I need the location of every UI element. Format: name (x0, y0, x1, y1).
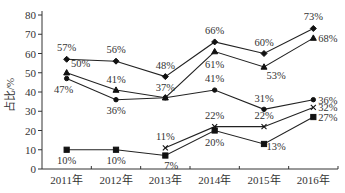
x-tick-label: 2015年 (248, 173, 281, 186)
x-tick-label: 2013年 (149, 173, 182, 186)
series-1-point (113, 58, 119, 64)
series-1-data-label: 66% (205, 25, 225, 36)
series-2-data-label: 37% (156, 82, 176, 93)
series-1-data-label: 73% (304, 11, 324, 22)
series-1-point (261, 51, 267, 57)
x-tick-label: 2011年 (50, 173, 83, 186)
series-3-point (163, 96, 167, 100)
y-tick-label: 40 (25, 86, 37, 98)
y-tick-label: 30 (25, 105, 37, 117)
series-3-line (67, 79, 314, 110)
series-5-data-label: 20% (205, 137, 225, 148)
series-1-data-label: 56% (106, 44, 126, 55)
series-2-data-label: 53% (266, 70, 286, 81)
series-5-data-label: 7% (164, 160, 178, 171)
series-2-data-label: 68% (318, 33, 338, 44)
series-1-point (64, 56, 70, 62)
series-3-point (212, 88, 216, 92)
series-1-point (310, 25, 316, 31)
series-2-point (310, 35, 316, 40)
series-3-point (311, 98, 315, 102)
x-tick-label: 2014年 (198, 173, 231, 186)
series-1-data-label: 60% (254, 37, 274, 48)
series-5-data-label: 27% (318, 112, 338, 123)
y-tick-label: 80 (25, 9, 37, 21)
series-3-point (114, 98, 118, 102)
y-tick-label: 60 (25, 48, 37, 60)
series-3-data-label: 47% (54, 84, 74, 95)
series-3-data-label: 31% (254, 93, 274, 104)
series-5-point (113, 147, 118, 152)
series-4-point (163, 145, 168, 150)
series-2-data-label: 61% (205, 59, 225, 70)
series-5-data-label: 10% (106, 155, 126, 166)
y-tick-label: 20 (25, 125, 37, 137)
series-3-point (64, 76, 68, 80)
series-3 (64, 76, 315, 111)
y-tick-label: 70 (25, 28, 37, 40)
x-tick-label: 2012年 (100, 173, 133, 186)
series-1-data-label: 48% (156, 60, 176, 71)
series-2 (64, 35, 317, 100)
y-tick-label: 50 (25, 67, 37, 79)
y-axis-label: 占比/% (3, 78, 16, 112)
y-tick-label: 10 (25, 144, 37, 156)
x-tick-label: 2016年 (297, 173, 330, 186)
series-3-data-label: 41% (205, 73, 225, 84)
series-2-point (64, 70, 70, 75)
series-4-data-label: 11% (156, 131, 175, 142)
series-4-point (311, 105, 316, 110)
series-5-point (64, 147, 69, 152)
series-4-data-label: 22% (205, 110, 225, 121)
series-5-point (163, 153, 168, 158)
series-4-line (165, 107, 313, 147)
series-5-point (212, 128, 217, 133)
y-tick-label: 0 (31, 163, 37, 175)
series-2-data-label: 41% (106, 74, 126, 85)
series-4-data-label: 22% (254, 110, 274, 121)
line-chart: 占比/% 010203040506070802011年2012年2013年201… (0, 0, 345, 193)
series-3-data-label: 36% (106, 105, 126, 116)
series-5-point (311, 114, 316, 119)
series-layer (64, 25, 317, 158)
series-2-point (212, 48, 218, 53)
series-5-data-label: 13% (266, 141, 286, 152)
series-1-data-label: 57% (57, 42, 77, 53)
series-2-data-label: 50% (71, 58, 91, 69)
series-5-data-label: 10% (57, 155, 77, 166)
